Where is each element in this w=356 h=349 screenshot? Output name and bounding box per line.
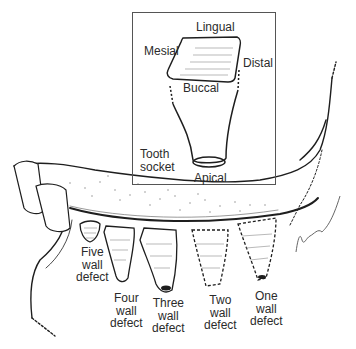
label-two-wall-defect: Twowalldefect <box>204 294 237 332</box>
label-buccal: Buccal <box>183 82 219 94</box>
artist-signature <box>296 196 340 252</box>
label-three-wall-defect: Threewalldefect <box>152 297 185 335</box>
label-tooth-socket: Tooth socket <box>140 148 175 173</box>
label-apical: Apical <box>194 172 227 184</box>
label-lingual: Lingual <box>196 21 235 33</box>
two-wall-socket <box>192 230 228 286</box>
defect-sockets <box>80 218 276 292</box>
label-five-wall-defect: Fivewalldefect <box>76 246 109 284</box>
one-wall-socket <box>238 218 276 280</box>
label-distal: Distal <box>243 57 273 69</box>
label-one-wall-defect: Onewalldefect <box>250 290 283 328</box>
three-wall-socket <box>140 228 177 292</box>
five-wall-socket <box>80 221 100 242</box>
label-mesial: Mesial <box>144 45 179 57</box>
incisor-teeth <box>14 161 70 231</box>
label-four-wall-defect: Fourwalldefect <box>110 292 143 330</box>
